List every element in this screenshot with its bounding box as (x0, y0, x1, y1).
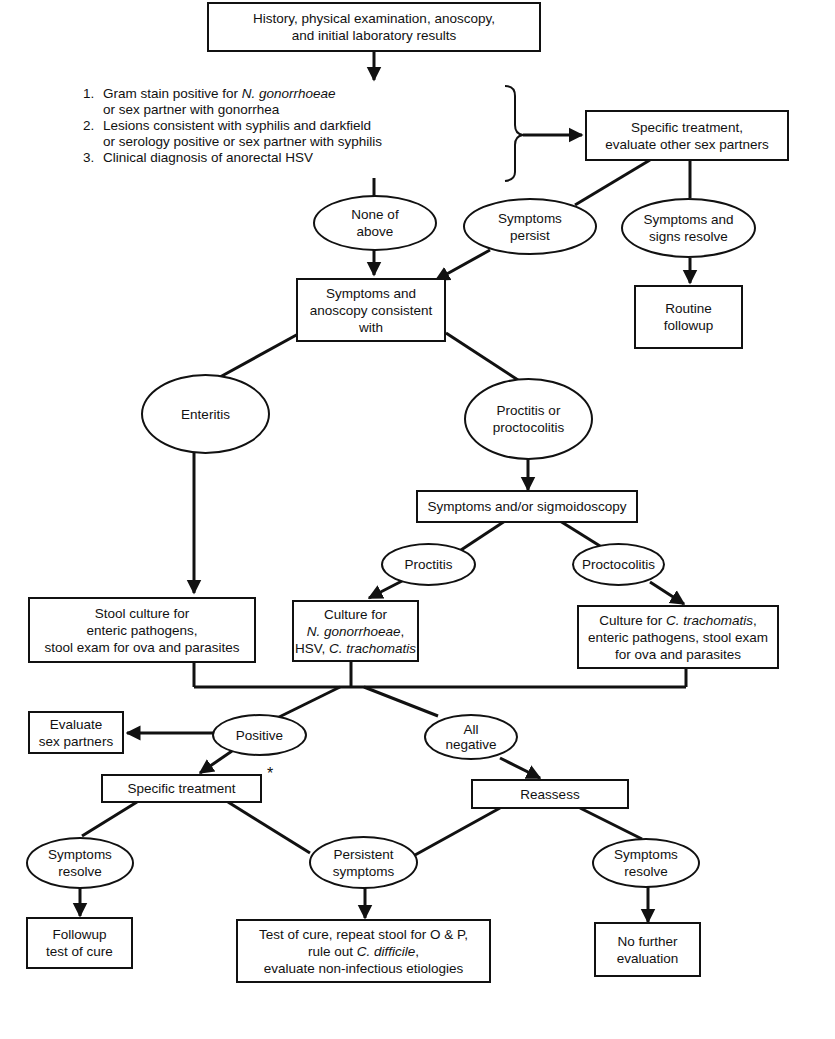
culture-gonorrhoeae-box: Culture for N. gonorrhoeae, HSV, C. trac… (292, 600, 419, 662)
enteritis-oval: Enteritis (141, 374, 270, 454)
followup-test-of-cure-box: Followup test of cure (26, 917, 133, 969)
persistent-symptoms-oval: Persistent symptoms (309, 836, 418, 889)
specific-treatment-partners-box: Specific treatment, evaluate other sex p… (585, 110, 789, 161)
sigmoidoscopy-box: Symptoms and/or sigmoidoscopy (416, 490, 638, 523)
start-line-1: History, physical examination, anoscopy, (253, 10, 495, 27)
start-line-2: and initial laboratory results (292, 27, 456, 44)
criteria-item-3: 3. Clinical diagnosis of anorectal HSV (83, 150, 413, 166)
no-further-evaluation-box: No further evaluation (594, 922, 701, 977)
footnote-asterisk: * (267, 765, 273, 783)
criteria-item-2: 2. Lesions consistent with syphilis and … (83, 118, 413, 150)
reassess-box: Reassess (471, 779, 629, 809)
proctocolitis-oval: Proctocolitis (572, 543, 665, 586)
symptoms-signs-resolve-oval: Symptoms and signs resolve (621, 198, 756, 258)
diagnostic-criteria-list: 1. Gram stain positive for N. gonorrhoea… (83, 86, 413, 166)
start-history-box: History, physical examination, anoscopy,… (207, 2, 541, 52)
proctitis-oval: Proctitis (381, 543, 476, 586)
stool-culture-box: Stool culture for enteric pathogens, sto… (28, 597, 256, 663)
symptoms-anoscopy-box: Symptoms and anoscopy consistent with (296, 278, 446, 342)
specific-treatment-box: Specific treatment (101, 774, 262, 803)
symptoms-resolve-right-oval: Symptoms resolve (592, 838, 700, 888)
proctitis-or-proctocolitis-oval: Proctitis or proctocolitis (464, 378, 593, 460)
test-of-cure-box: Test of cure, repeat stool for O & P, ru… (236, 919, 491, 983)
none-of-above-oval: None of above (313, 195, 437, 251)
all-negative-oval: All negative (424, 714, 518, 760)
symptoms-resolve-left-oval: Symptoms resolve (26, 837, 134, 889)
positive-oval: Positive (212, 714, 307, 756)
evaluate-sex-partners-box: Evaluate sex partners (28, 711, 124, 754)
symptoms-persist-oval: Symptoms persist (463, 198, 597, 255)
routine-followup-box: Routine followup (634, 285, 743, 349)
criteria-item-1: 1. Gram stain positive for N. gonorrhoea… (83, 86, 413, 118)
culture-trachomatis-box: Culture for C. trachomatis, enteric path… (577, 605, 779, 669)
